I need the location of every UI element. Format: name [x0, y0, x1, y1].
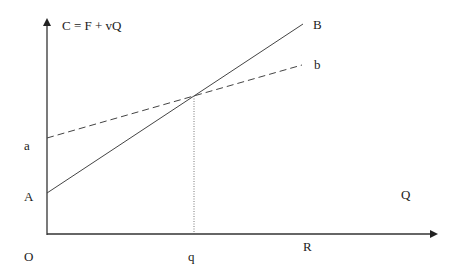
- label-B: B: [313, 17, 322, 32]
- line-a-b-dashed: [47, 65, 302, 138]
- label-R: R: [303, 239, 312, 254]
- line-A-B: [47, 24, 303, 193]
- label-a: a: [24, 138, 30, 153]
- label-Q: Q: [401, 187, 411, 202]
- label-O: O: [24, 249, 33, 264]
- break-even-diagram: C = F + vQ B b a A Q O q R: [0, 0, 456, 271]
- label-q: q: [188, 249, 195, 264]
- equation-label: C = F + vQ: [62, 18, 122, 33]
- label-b: b: [314, 57, 321, 72]
- label-A: A: [24, 189, 34, 204]
